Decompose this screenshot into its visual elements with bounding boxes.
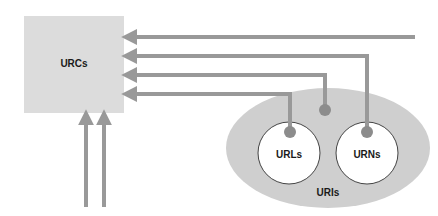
urcs-node: URCs (24, 16, 124, 113)
urls-label: URLs (276, 149, 303, 160)
diagram-canvas: URCs URIs URLs URNs (0, 0, 438, 216)
urns-connector-dot (361, 126, 373, 138)
uris-connector-dot (319, 104, 331, 116)
urls-connector-dot (284, 126, 296, 138)
urns-label: URNs (353, 149, 381, 160)
urcs-label: URCs (60, 58, 88, 69)
uris-label: URIs (317, 187, 340, 198)
